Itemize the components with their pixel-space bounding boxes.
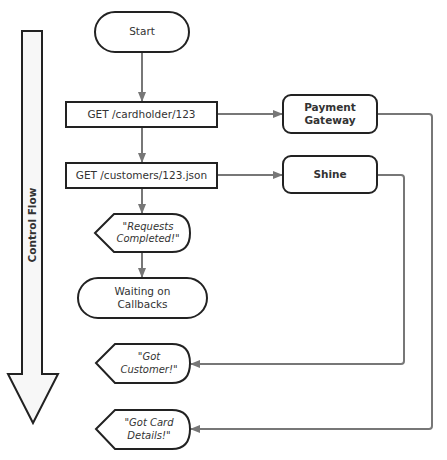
- get-cardholder-label: GET /cardholder/123: [66, 102, 217, 127]
- edge-shine-to-got-customer: [191, 175, 404, 364]
- shine-label: Shine: [283, 156, 377, 193]
- requests-completed-label: "Requests Completed!": [108, 214, 188, 252]
- got-card-details-label: "Got Card Details!": [109, 410, 189, 449]
- got-customer-label: "Got Customer!": [109, 344, 189, 383]
- get-customers-label: GET /customers/123.json: [66, 163, 217, 188]
- flowchart-canvas: [0, 0, 447, 460]
- payment-gateway-label: Payment Gateway: [283, 95, 377, 133]
- control-flow-label: Control Flow: [26, 188, 38, 263]
- start-label: Start: [95, 12, 189, 52]
- waiting-label: Waiting on Callbacks: [78, 278, 207, 318]
